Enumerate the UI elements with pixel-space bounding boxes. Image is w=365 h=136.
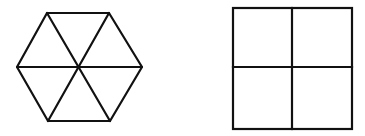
hexagon-shape [17, 13, 142, 121]
figure-canvas [0, 0, 365, 136]
square-shape [233, 8, 352, 129]
